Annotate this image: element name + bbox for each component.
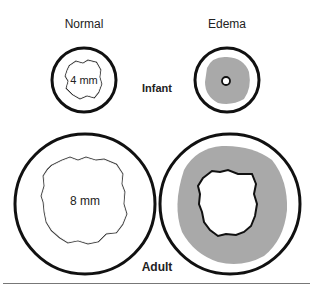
infant-edema-airway <box>195 48 259 112</box>
adult-normal-diameter: 8 mm <box>70 194 100 208</box>
column-label-normal: Normal <box>65 17 104 31</box>
bottom-divider <box>3 283 310 284</box>
airway-diagram <box>0 0 314 290</box>
row-label-adult: Adult <box>142 260 173 274</box>
row-label-infant: Infant <box>142 82 172 94</box>
infant-normal-diameter: 4 mm <box>70 74 98 86</box>
infant-edema-lumen <box>222 77 230 85</box>
adult-edema-lumen <box>198 170 257 236</box>
column-label-edema: Edema <box>208 17 246 31</box>
adult-edema-airway <box>160 134 300 274</box>
